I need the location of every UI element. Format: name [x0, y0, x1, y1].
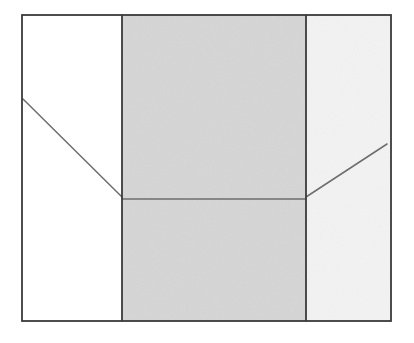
left-panel: [22, 15, 122, 321]
center-panel: [122, 15, 306, 321]
diagram-canvas: [0, 0, 414, 343]
right-panel: [306, 15, 391, 321]
